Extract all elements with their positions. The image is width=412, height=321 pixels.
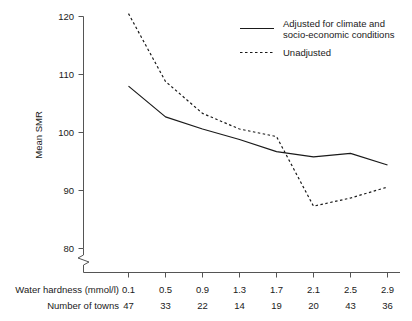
x-tick-label-4: 1.7 [270,284,283,295]
x-tick-label-5: 2.1 [307,284,320,295]
towns-value-7: 36 [382,300,393,311]
row-label-number-of-towns: Number of towns [47,300,119,311]
towns-value-2: 22 [197,300,208,311]
towns-value-3: 14 [234,300,245,311]
x-tick-label-0: 0.1 [122,284,135,295]
y-axis-title: Mean SMR [33,111,44,159]
x-tick-label-6: 2.5 [344,284,357,295]
towns-value-6: 43 [345,300,356,311]
y-tick-label-110: 110 [59,69,74,80]
chart-figure: 120 110 100 90 80 Mean SMR Adjusted for … [0,0,412,321]
towns-value-4: 19 [271,300,282,311]
towns-value-1: 33 [160,300,171,311]
y-tick-label-80: 80 [63,243,74,254]
x-tick-label-3: 1.3 [233,284,246,295]
y-tick-label-120: 120 [58,11,74,22]
legend-label-adjusted-line1: Adjusted for climate and [283,18,385,29]
chart-canvas: 120 110 100 90 80 Mean SMR Adjusted for … [0,0,412,321]
legend-label-adjusted-line2: socio-economic conditions [283,29,395,40]
towns-value-0: 47 [123,300,134,311]
towns-value-5: 20 [308,300,319,311]
y-tick-label-90: 90 [63,185,74,196]
row-label-water-hardness: Water hardness (mmol/l) [15,284,119,295]
y-tick-label-100: 100 [58,127,74,138]
legend-label-unadjusted: Unadjusted [283,47,331,58]
x-tick-label-7: 2.9 [381,284,394,295]
x-tick-label-2: 0.9 [196,284,209,295]
x-tick-label-1: 0.5 [159,284,172,295]
